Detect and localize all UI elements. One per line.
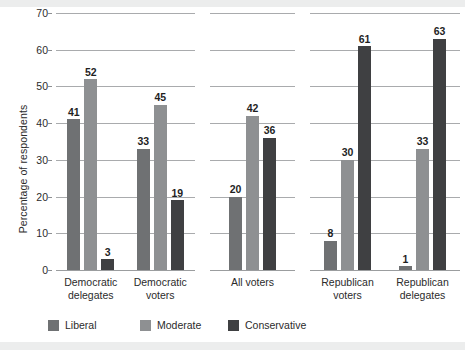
bar-moderate[interactable]: 30 bbox=[341, 160, 354, 270]
bar-conservative[interactable]: 63 bbox=[433, 39, 446, 270]
bar-liberal[interactable]: 8 bbox=[324, 241, 337, 270]
y-axis-title: Percentage of respondents bbox=[17, 69, 29, 269]
legend-label: Moderate bbox=[157, 320, 201, 331]
legend-label: Liberal bbox=[65, 320, 97, 331]
group-label: Democraticdelegates bbox=[64, 276, 117, 302]
bar-value-label: 20 bbox=[230, 184, 242, 195]
bar-value-label: 19 bbox=[171, 188, 183, 199]
y-tick-label: 50 bbox=[24, 81, 48, 92]
legend-item-conservative[interactable]: Conservative bbox=[228, 316, 306, 334]
bar-value-label: 63 bbox=[434, 26, 446, 37]
group-label-line1: Democratic bbox=[64, 276, 117, 289]
bar-value-label: 36 bbox=[264, 125, 276, 136]
bar-value-label: 45 bbox=[154, 92, 166, 103]
y-tick-label: 40 bbox=[24, 118, 48, 129]
bar-value-label: 52 bbox=[85, 67, 97, 78]
y-tick-mark bbox=[48, 13, 52, 14]
bar-value-label: 33 bbox=[417, 136, 429, 147]
bar-value-label: 8 bbox=[328, 228, 334, 239]
bar-value-label: 41 bbox=[68, 107, 80, 118]
group-label-line1: Republican bbox=[396, 276, 449, 289]
panel-all-voters: 204236All voters bbox=[210, 8, 295, 308]
bar-chart-figure: Percentage of respondents 01020304050607… bbox=[0, 0, 465, 350]
group-label: Democraticvoters bbox=[134, 276, 187, 302]
bar-moderate[interactable]: 42 bbox=[246, 116, 259, 270]
bar-group: 83061Republicanvoters bbox=[319, 8, 377, 270]
group-label-line1: All voters bbox=[231, 276, 274, 289]
panel-democratic: 41523Democraticdelegates334519Democratic… bbox=[56, 8, 195, 308]
group-label-line1: Democratic bbox=[134, 276, 187, 289]
bar-conservative[interactable]: 19 bbox=[171, 200, 184, 270]
y-tick-label: 70 bbox=[24, 8, 48, 19]
y-tick-mark bbox=[48, 123, 52, 124]
group-label-line2: delegates bbox=[396, 289, 449, 302]
bar-moderate[interactable]: 52 bbox=[84, 79, 97, 270]
bar-group: 334519Democraticvoters bbox=[131, 8, 189, 270]
group-label-line2: voters bbox=[134, 289, 187, 302]
y-tick-mark bbox=[48, 86, 52, 87]
group-label: Republicandelegates bbox=[396, 276, 449, 302]
group-label: Republicanvoters bbox=[321, 276, 374, 302]
y-tick-label: 20 bbox=[24, 192, 48, 203]
y-tick-mark bbox=[48, 160, 52, 161]
legend-label: Conservative bbox=[245, 320, 306, 331]
bar-liberal[interactable]: 20 bbox=[229, 197, 242, 270]
bar-liberal[interactable]: 1 bbox=[399, 266, 412, 270]
legend-swatch-icon bbox=[140, 320, 151, 331]
group-label-line1: Republican bbox=[321, 276, 374, 289]
y-tick-label: 0 bbox=[24, 265, 48, 276]
axis-baseline bbox=[210, 270, 295, 271]
bar-liberal[interactable]: 33 bbox=[137, 149, 150, 270]
y-tick-mark bbox=[48, 233, 52, 234]
chart-legend: LiberalModerateConservative bbox=[0, 316, 465, 334]
bar-liberal[interactable]: 41 bbox=[67, 119, 80, 270]
y-tick-label: 10 bbox=[24, 228, 48, 239]
bar-value-label: 33 bbox=[137, 136, 149, 147]
bar-value-label: 1 bbox=[403, 254, 409, 265]
y-tick-label: 60 bbox=[24, 45, 48, 56]
bar-group: 13363Republicandelegates bbox=[394, 8, 452, 270]
bar-value-label: 61 bbox=[359, 34, 371, 45]
legend-swatch-icon bbox=[48, 320, 59, 331]
bar-value-label: 42 bbox=[247, 103, 259, 114]
legend-item-moderate[interactable]: Moderate bbox=[140, 316, 201, 334]
axis-baseline bbox=[310, 270, 460, 271]
group-label: All voters bbox=[231, 276, 274, 289]
plot-area: Percentage of respondents 01020304050607… bbox=[0, 8, 465, 308]
y-tick-mark bbox=[48, 50, 52, 51]
bar-value-label: 3 bbox=[105, 247, 111, 258]
y-tick-mark bbox=[48, 197, 52, 198]
axis-baseline bbox=[56, 270, 195, 271]
bar-moderate[interactable]: 45 bbox=[154, 105, 167, 270]
top-edge-band bbox=[0, 0, 465, 7]
bar-conservative[interactable]: 61 bbox=[358, 46, 371, 270]
y-tick-mark bbox=[48, 270, 52, 271]
panel-republican: 83061Republicanvoters13363Republicandele… bbox=[310, 8, 460, 308]
bar-value-label: 30 bbox=[342, 147, 354, 158]
group-label-line2: delegates bbox=[64, 289, 117, 302]
bottom-edge-band bbox=[0, 342, 465, 350]
group-label-line2: voters bbox=[321, 289, 374, 302]
legend-item-liberal[interactable]: Liberal bbox=[48, 316, 97, 334]
bar-conservative[interactable]: 3 bbox=[101, 259, 114, 270]
bar-group: 204236All voters bbox=[224, 8, 282, 270]
bar-group: 41523Democraticdelegates bbox=[62, 8, 120, 270]
y-tick-label: 30 bbox=[24, 155, 48, 166]
bar-moderate[interactable]: 33 bbox=[416, 149, 429, 270]
bar-conservative[interactable]: 36 bbox=[263, 138, 276, 270]
legend-swatch-icon bbox=[228, 320, 239, 331]
